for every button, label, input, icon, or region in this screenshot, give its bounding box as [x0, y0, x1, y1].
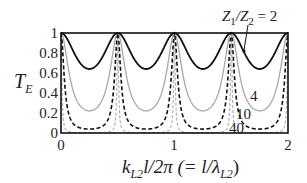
- annotation-ratio-40: 40: [229, 120, 244, 136]
- x-tick: 0: [57, 137, 65, 153]
- x-tick: 2: [284, 137, 292, 153]
- annotation-dot: [242, 49, 245, 52]
- y-tick: 0.8: [39, 45, 58, 61]
- y-tick: 0.2: [39, 105, 58, 121]
- y-tick: 0.4: [39, 85, 58, 101]
- y-axis-label: TE: [14, 70, 33, 96]
- annotation-ratio-4: 4: [250, 88, 258, 104]
- annotation-pointer: [244, 25, 248, 50]
- transmission-chart: 0 0.2 0.4 0.6 0.8 1 0 1 2 TE kL2l/2π (= …: [0, 0, 307, 183]
- annotation-ratio-2: Z1/Z2 = 2: [222, 8, 277, 27]
- x-tick-labels: 0 1 2: [57, 137, 292, 153]
- y-tick: 0.6: [39, 65, 58, 81]
- x-tick: 1: [170, 137, 178, 153]
- y-tick: 1: [51, 25, 59, 41]
- plot-curves: [61, 33, 288, 133]
- x-axis-label: kL2l/2π (= l/λL2): [122, 156, 239, 181]
- y-tick-labels: 0 0.2 0.4 0.6 0.8 1: [39, 25, 58, 141]
- curve-ratio-40: [61, 33, 288, 133]
